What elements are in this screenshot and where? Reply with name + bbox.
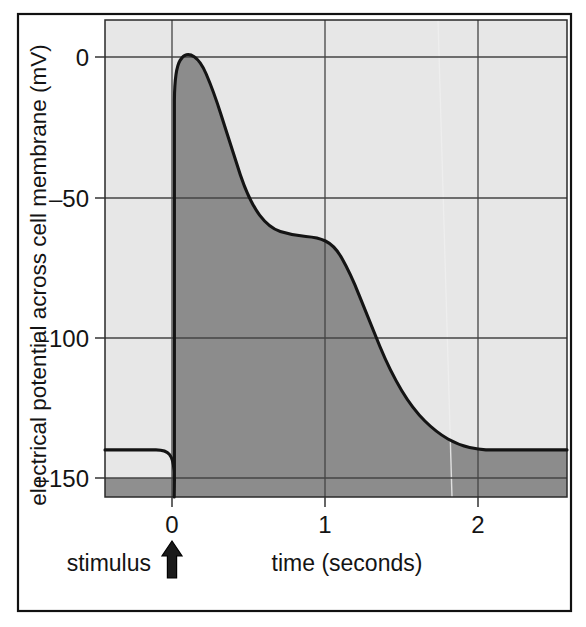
ytick-label-minus50: –50 [49,185,89,212]
action-potential-figure: 0 –50 –100 –150 electrical potential acr… [0,0,586,627]
x-axis-title: time (seconds) [272,550,423,576]
y-axis-title: electrical potential across cell membran… [26,44,51,505]
stimulus-label: stimulus [67,550,151,576]
xtick-label-1: 1 [318,511,331,538]
xtick-label-2: 2 [471,511,484,538]
ytick-label-0: 0 [76,44,89,71]
xtick-label-0: 0 [165,511,178,538]
